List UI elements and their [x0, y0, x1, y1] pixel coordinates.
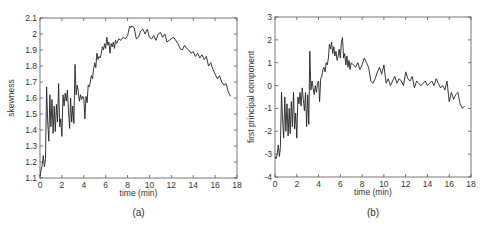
x-tick-label: 4: [81, 180, 86, 190]
figure: 024681012141618 1.11.21.31.41.51.61.71.8…: [0, 0, 492, 228]
panel-b-plot-area: [275, 17, 471, 177]
panel-b-caption: (b): [367, 207, 379, 218]
x-tick-label: 0: [273, 179, 278, 189]
panel-a-plot-area: [40, 18, 237, 178]
x-tick-label: 6: [103, 180, 108, 190]
y-tick-label: 0: [267, 81, 272, 91]
x-tick-label: 14: [423, 179, 433, 189]
y-tick-label: 1.5: [25, 109, 37, 119]
y-tick-label: 1.8: [25, 61, 37, 71]
x-tick-label: 2: [294, 179, 299, 189]
x-tick-label: 12: [401, 179, 411, 189]
x-tick-label: 12: [167, 180, 177, 190]
y-tick-label: -4: [264, 172, 272, 182]
y-tick-label: 2: [267, 35, 272, 45]
y-tick-label: 1: [267, 58, 272, 68]
panel-a-y-axis-label: skewness: [6, 79, 16, 116]
x-tick-label: 4: [316, 179, 321, 189]
figure-canvas: 024681012141618 1.11.21.31.41.51.61.71.8…: [0, 0, 492, 228]
x-tick-label: 6: [338, 179, 343, 189]
y-tick-label: 1.2: [25, 157, 37, 167]
panel-a-caption: (a): [132, 207, 144, 218]
y-tick-label: -3: [264, 149, 272, 159]
x-tick-label: 18: [466, 179, 476, 189]
y-tick-label: -1: [264, 103, 272, 113]
y-tick-label: 1.3: [25, 141, 37, 151]
y-tick-label: 3: [267, 12, 272, 22]
panel-b-chart: 024681012141618 -4-3-2-10123 time (min) …: [246, 12, 476, 218]
y-tick-label: 2: [32, 29, 37, 39]
panel-b-x-axis-label: time (min): [354, 187, 392, 197]
x-tick-label: 16: [210, 180, 220, 190]
y-tick-label: 1.6: [25, 93, 37, 103]
y-tick-label: 1.4: [25, 125, 37, 135]
x-tick-label: 2: [60, 180, 65, 190]
y-tick-label: 1.9: [25, 45, 37, 55]
y-tick-label: -2: [264, 126, 272, 136]
panel-b-y-axis-label: first principal component: [246, 50, 256, 143]
panel-a-x-axis-label: time (min): [120, 188, 158, 198]
x-tick-label: 18: [232, 180, 242, 190]
y-tick-label: 1.7: [25, 77, 37, 87]
panel-a-chart: 024681012141618 1.11.21.31.41.51.61.71.8…: [6, 13, 242, 218]
x-tick-label: 0: [38, 180, 43, 190]
x-tick-label: 16: [444, 179, 454, 189]
y-tick-label: 2.1: [25, 13, 37, 23]
x-tick-label: 14: [188, 180, 198, 190]
y-tick-label: 1.1: [25, 173, 37, 183]
